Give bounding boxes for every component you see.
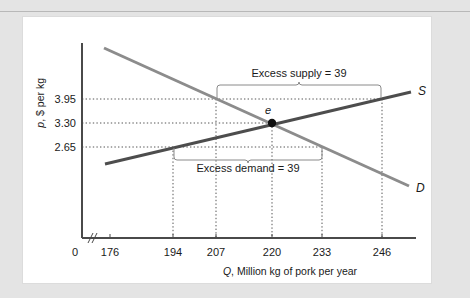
y-tick-label-2.65: 2.65 [55,141,76,153]
supply-curve-label: S [418,84,426,98]
x-tick-label-176: 176 [101,246,119,258]
equilibrium-point-label: e [265,104,271,116]
x-tick-label-194: 194 [164,246,182,258]
x-tick-label-207: 207 [207,246,225,258]
x-axis-title: Q, Million kg of pork per year [223,265,358,277]
x-tick-label-233: 233 [313,246,331,258]
y-tick-label-3.95: 3.95 [55,93,76,105]
demand-curve-label: D [416,181,425,195]
y-tick-label-3.30: 3.30 [55,117,76,129]
y-axis-tick-labels: 3.95 3.30 2.65 [55,93,76,153]
excess-supply-label: Excess supply = 39 [251,67,346,79]
equilibrium-point [268,119,276,127]
supply-curve [105,92,411,164]
x-tick-label-220: 220 [263,246,281,258]
supply-demand-chart: e Excess supply = 39 Excess demand = 39 [0,0,470,298]
x-axis-tick-labels: 0 176 194 207 220 233 246 [72,246,391,258]
x-origin-label: 0 [72,246,78,258]
excess-demand-label: Excess demand = 39 [196,162,299,174]
y-axis-title-units: , $ per kg [34,78,46,122]
x-tick-label-246: 246 [373,246,391,258]
excess-supply-bracket [217,82,381,98]
x-axis-title-units: , Million kg of pork per year [231,265,358,277]
x-axis-title-variable: Q [223,265,231,277]
figure-root: e Excess supply = 39 Excess demand = 39 [0,0,470,298]
excess-demand-bracket [174,148,322,163]
y-axis-title: p, $ per kg [34,78,46,129]
